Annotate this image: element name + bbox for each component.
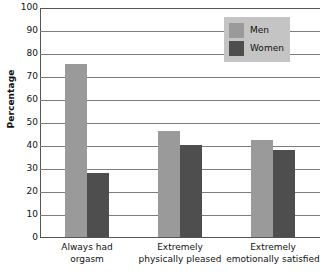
x-label-line1: Always had — [61, 242, 112, 252]
x-label-line2: emotionally satisfied — [213, 253, 327, 265]
men-swatch-icon — [229, 23, 244, 38]
legend-entry-men: Men — [229, 21, 290, 39]
gridline-100 — [40, 8, 320, 9]
y-tick-label-50: 50 — [4, 118, 38, 127]
legend-label-men: Men — [250, 26, 269, 35]
y-tick-label-40: 40 — [4, 141, 38, 150]
bar-men-group-1 — [65, 64, 87, 237]
chart-legend: Men Women — [224, 17, 290, 62]
y-tick-label-30: 30 — [4, 164, 38, 173]
y-tick-label-90: 90 — [4, 26, 38, 35]
y-axis-tick-labels: 1009080706050403020100 — [0, 8, 38, 238]
x-label-line1: Extremely — [157, 242, 203, 252]
legend-entry-women: Women — [229, 39, 290, 57]
x-label-group-3: Extremelyemotionally satisfied — [213, 241, 327, 265]
y-tick-label-100: 100 — [4, 3, 38, 12]
y-tick-label-10: 10 — [4, 210, 38, 219]
y-tick-label-80: 80 — [4, 49, 38, 58]
women-swatch-icon — [229, 41, 244, 56]
bar-chart: Percentage 1009080706050403020100 Always… — [0, 0, 327, 274]
legend-label-women: Women — [250, 44, 284, 53]
bar-women-group-2 — [180, 145, 202, 237]
bar-women-group-3 — [273, 150, 295, 237]
y-tick-label-60: 60 — [4, 95, 38, 104]
y-tick-label-70: 70 — [4, 72, 38, 81]
x-axis-category-labels: Always hadorgasmExtremelyphysically plea… — [40, 241, 323, 274]
x-label-line1: Extremely — [250, 242, 296, 252]
bar-men-group-2 — [158, 131, 180, 237]
bar-men-group-3 — [251, 140, 273, 237]
y-tick-label-20: 20 — [4, 187, 38, 196]
bar-women-group-1 — [87, 173, 109, 237]
x-axis-line — [40, 237, 320, 238]
